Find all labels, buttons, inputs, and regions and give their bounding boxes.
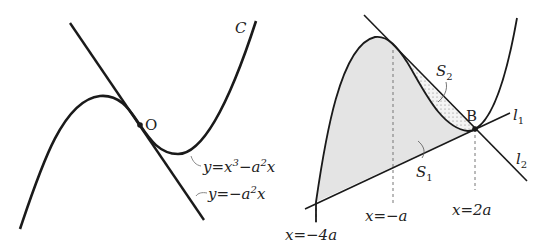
line-l2-label: l2 bbox=[516, 150, 527, 170]
origin-label: O bbox=[145, 116, 157, 134]
x-mark-neg-a: x=−a bbox=[365, 207, 408, 225]
left-figure: O C y=x3−a2x y=−a2x bbox=[20, 19, 276, 229]
point-b bbox=[472, 126, 478, 132]
tangent-equation: y=−a2x bbox=[207, 184, 266, 203]
point-b-label: B bbox=[466, 107, 477, 125]
right-figure: B l1 l2 S2 S1 x=−4a x=−a x=2a bbox=[285, 15, 527, 244]
line-l1-label: l1 bbox=[513, 106, 524, 126]
origin-point bbox=[137, 122, 143, 128]
x-mark-2a: x=2a bbox=[452, 201, 492, 219]
x-mark-neg4a: x=−4a bbox=[285, 226, 337, 244]
diagram-canvas: O C y=x3−a2x y=−a2x B bbox=[0, 0, 540, 246]
curve-equation: y=x3−a2x bbox=[202, 157, 276, 176]
region-s1-label: S1 bbox=[416, 163, 433, 183]
tangent-leader bbox=[196, 193, 207, 196]
curve-label-c: C bbox=[235, 19, 247, 37]
region-s2-label: S2 bbox=[436, 62, 453, 82]
curve-leader bbox=[191, 156, 201, 166]
